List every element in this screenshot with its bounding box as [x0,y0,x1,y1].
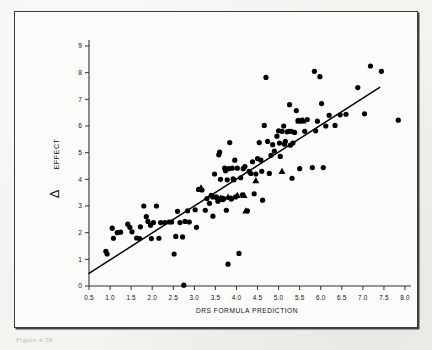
data-point-circle [272,148,277,153]
data-point-circle [110,226,115,231]
plot-canvas: 0.51.01.52.02.53.03.54.04.55.05.56.06.57… [15,12,419,329]
data-point-circle [270,142,275,147]
data-point-circle [302,129,307,134]
x-axis-tick-label: 8.0 [400,294,410,301]
data-point-circle [287,102,292,107]
data-point-circle [319,101,324,106]
data-point-circle [177,220,182,225]
data-point-circle [263,75,268,80]
data-point-circle [224,208,229,213]
scatter-plot: 0.51.01.52.02.53.03.54.04.55.05.56.06.57… [15,12,419,329]
x-axis-tick-label: 6.0 [316,294,326,301]
data-point-circle [332,123,337,128]
y-axis-title-text: EFFECT [52,138,61,169]
data-point-circle [144,214,149,219]
data-point-circle [238,175,243,180]
y-axis-tick-label: 9 [78,42,82,49]
data-point-circle [138,224,143,229]
data-point-circle [154,203,159,208]
data-point-circle [265,139,270,144]
data-point-circle [253,171,258,176]
data-point-circle [230,166,235,171]
data-point-circle [227,140,232,145]
x-axis-tick-label: 4.0 [232,294,242,301]
y-axis-tick-label: 0 [78,282,82,289]
data-point-circle [210,214,215,219]
data-point-circle [232,158,237,163]
y-axis-tick-label: 2 [78,229,82,236]
delta-symbol: Δ [47,189,62,198]
data-point-circle [277,140,282,145]
data-point-circle [290,140,295,145]
data-point-circle [207,201,212,206]
data-point-circle [305,117,310,122]
data-point-circle [111,236,116,241]
y-axis-tick-label: 1 [78,256,82,263]
data-point-circle [279,129,284,134]
series-circles [103,63,401,287]
data-point-circle [250,159,255,164]
data-point-circle [241,166,246,171]
data-point-circle [274,134,279,139]
data-point-circle [248,171,253,176]
x-axis-title: DRS FORMULA PREDICTION [196,307,298,314]
data-point-circle [225,177,230,182]
data-point-circle [310,165,315,170]
data-point-circle [323,123,328,128]
scanned-page: 0.51.01.52.02.53.03.54.04.55.05.56.06.57… [0,0,432,350]
data-point-circle [268,153,273,158]
data-point-circle [212,171,217,176]
x-axis-tick-label: 1.0 [105,294,115,301]
data-point-triangle [278,168,285,174]
data-point-circle [368,63,373,68]
data-point-circle [327,113,332,118]
data-point-circle [129,229,134,234]
data-point-circle [175,209,180,214]
x-axis-tick-label: 4.5 [253,294,263,301]
y-axis-tick-label: 5 [78,149,82,156]
data-point-circle [173,234,178,239]
data-point-circle [141,203,146,208]
data-point-circle [137,236,142,241]
data-point-circle [292,130,297,135]
data-point-triangle [252,177,259,183]
x-axis-tick-label: 3.0 [190,294,200,301]
data-point-circle [185,208,190,213]
x-axis-tick-label: 2.5 [169,294,179,301]
data-point-circle [162,220,167,225]
data-point-circle [194,225,199,230]
data-point-circle [258,158,263,163]
data-point-circle [294,108,299,113]
data-point-circle [379,69,384,74]
y-axis-tick-label: 7 [78,96,82,103]
y-axis-tick-label: 6 [78,122,82,129]
data-point-circle [252,191,257,196]
data-point-circle [262,123,267,128]
y-axis-tick-label: 3 [78,202,82,209]
data-point-circle [321,165,326,170]
data-point-circle [151,220,156,225]
data-point-circle [149,236,154,241]
x-axis-tick-label: 7.0 [358,294,368,301]
data-point-circle [267,171,272,176]
data-point-circle [231,177,236,182]
data-point-circle [218,177,223,182]
data-point-circle [289,176,294,181]
data-point-circle [281,123,286,128]
data-point-circle [193,207,198,212]
data-point-circle [315,119,320,124]
x-axis-tick-label: 5.5 [295,294,305,301]
figure-caption: Figure 4.50 [16,336,53,344]
data-point-circle [204,196,209,201]
data-point-circle [169,219,174,224]
data-point-circle [297,166,302,171]
data-point-circle [236,251,241,256]
data-point-circle [181,283,186,288]
y-axis-tick-label: 8 [78,69,82,76]
data-point-circle [235,166,240,171]
data-point-circle [343,112,348,117]
x-axis-tick-label: 6.5 [337,294,347,301]
data-point-circle [282,142,287,147]
data-point-circle [180,234,185,239]
y-axis-tick-label: 4 [78,176,82,183]
